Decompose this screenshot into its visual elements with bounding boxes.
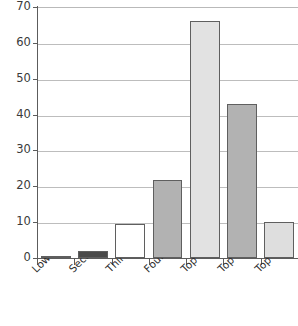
y-tick-label: 70 bbox=[0, 1, 31, 12]
bar bbox=[115, 224, 145, 258]
y-tick-label: 60 bbox=[0, 37, 31, 48]
bar bbox=[78, 251, 108, 258]
x-tick-labels: Lowest quintileSecond quintileThird quin… bbox=[0, 258, 298, 326]
bar bbox=[227, 104, 257, 258]
bar bbox=[153, 180, 183, 258]
y-tick-label: 40 bbox=[0, 109, 31, 120]
bar bbox=[190, 21, 220, 258]
x-tick-label: Top 10% bbox=[216, 258, 255, 275]
y-tick-label: 20 bbox=[0, 180, 31, 191]
y-tick-label: 10 bbox=[0, 216, 31, 227]
y-tick-label: 50 bbox=[0, 73, 31, 84]
x-tick-label: Top 1% bbox=[253, 258, 288, 275]
bar-chart: 010203040506070 Lowest quintileSecond qu… bbox=[0, 0, 298, 326]
bar bbox=[264, 222, 294, 258]
y-tick-label: 30 bbox=[0, 144, 31, 155]
bars-layer bbox=[37, 7, 298, 258]
